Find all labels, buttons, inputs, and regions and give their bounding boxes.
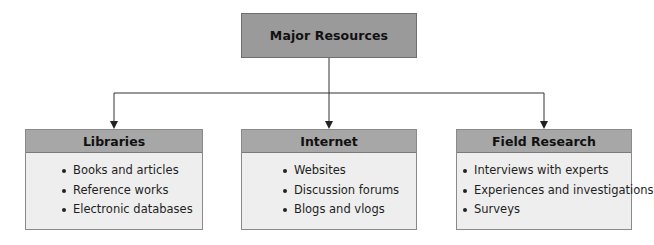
arrowhead-internet-icon <box>325 121 333 129</box>
root-node-title: Major Resources <box>270 28 388 43</box>
list-item: Blogs and vlogs <box>283 200 399 220</box>
node-header: Internet <box>242 130 416 153</box>
arrowhead-field-research-icon <box>540 121 548 129</box>
list-item: Books and articles <box>62 161 193 181</box>
list-item: Reference works <box>62 181 193 201</box>
node-internet: Internet Websites Discussion forums Blog… <box>241 129 417 230</box>
node-header: Field Research <box>457 130 631 153</box>
root-node-major-resources: Major Resources <box>241 13 417 58</box>
list-item: Discussion forums <box>283 181 399 201</box>
list-item: Experiences and investigations <box>463 181 654 201</box>
node-item-list: Interviews with experts Experiences and … <box>463 161 654 220</box>
node-item-list: Websites Discussion forums Blogs and vlo… <box>283 161 399 220</box>
node-title: Internet <box>300 134 358 149</box>
node-item-list: Books and articles Reference works Elect… <box>62 161 193 220</box>
node-header: Libraries <box>26 130 202 153</box>
node-field-research: Field Research Interviews with experts E… <box>456 129 632 230</box>
node-title: Libraries <box>83 134 145 149</box>
arrowhead-libraries-icon <box>110 121 118 129</box>
list-item: Websites <box>283 161 399 181</box>
list-item: Interviews with experts <box>463 161 654 181</box>
list-item: Electronic databases <box>62 200 193 220</box>
node-title: Field Research <box>492 134 596 149</box>
node-libraries: Libraries Books and articles Reference w… <box>25 129 203 230</box>
list-item: Surveys <box>463 200 654 220</box>
